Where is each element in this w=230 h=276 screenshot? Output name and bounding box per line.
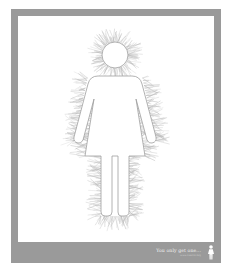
subline-text: www.cancer.org xyxy=(180,254,201,257)
poster-frame: You only get one... www.cancer.org xyxy=(11,9,221,263)
poster-panel xyxy=(18,16,214,242)
female-figure-icon xyxy=(18,16,214,242)
female-figure-icon xyxy=(207,245,215,260)
tagline-text: You only get one... xyxy=(156,248,201,253)
poster-footer: You only get one... www.cancer.org xyxy=(11,242,221,263)
